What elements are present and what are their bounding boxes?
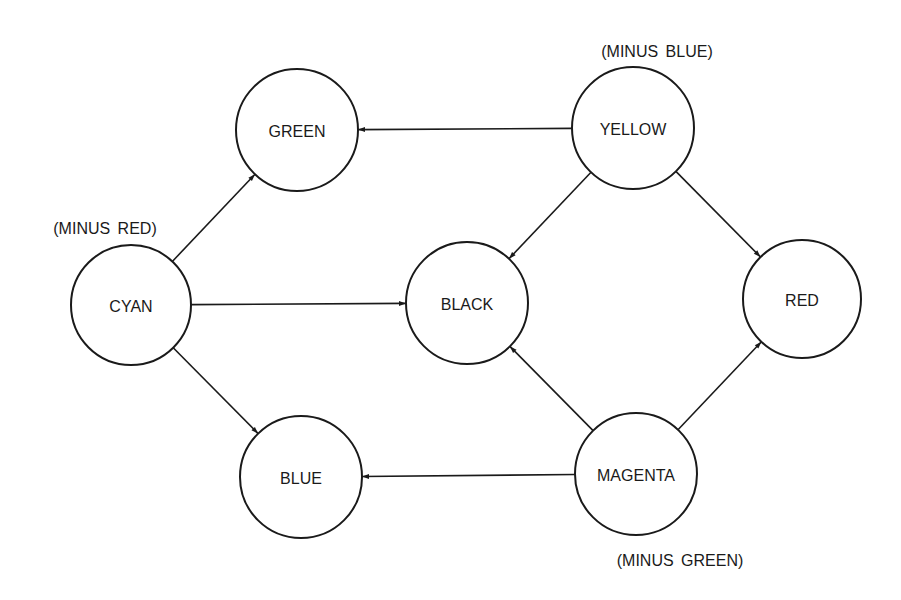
edge-cyan-to-blue xyxy=(173,348,258,434)
node-magenta: MAGENTA xyxy=(575,413,697,535)
node-blue: BLUE xyxy=(240,416,362,538)
edge-magenta-to-black xyxy=(510,346,593,430)
edge-yellow-to-green xyxy=(358,128,572,129)
node-green: GREEN xyxy=(236,69,358,191)
edge-yellow-to-black xyxy=(509,172,591,258)
node-label-magenta: MAGENTA xyxy=(597,467,675,484)
node-cyan: CYAN xyxy=(71,245,191,365)
annotation-minus-red: (MINUS RED) xyxy=(53,220,156,237)
edge-cyan-to-black xyxy=(191,303,406,304)
node-label-black: BLACK xyxy=(441,296,494,313)
node-label-cyan: CYAN xyxy=(109,298,152,315)
edge-magenta-to-red xyxy=(678,342,761,430)
edge-magenta-to-blue xyxy=(362,475,575,477)
edge-cyan-to-green xyxy=(172,174,255,261)
annotation-minus-blue: (MINUS BLUE) xyxy=(601,43,712,60)
nodes-layer: GREEN YELLOW CYAN BLACK RED BLUE MAGENTA xyxy=(71,67,861,538)
edge-yellow-to-red xyxy=(676,171,761,257)
node-red: RED xyxy=(743,240,861,358)
node-black: BLACK xyxy=(406,242,528,364)
node-yellow: YELLOW xyxy=(572,67,694,189)
node-label-red: RED xyxy=(785,292,819,309)
node-label-blue: BLUE xyxy=(280,470,322,487)
node-label-green: GREEN xyxy=(269,123,326,140)
annotation-minus-green: (MINUS GREEN) xyxy=(617,552,744,569)
subtractive-color-diagram: GREEN YELLOW CYAN BLACK RED BLUE MAGENTA… xyxy=(0,0,901,600)
node-label-yellow: YELLOW xyxy=(600,121,668,138)
